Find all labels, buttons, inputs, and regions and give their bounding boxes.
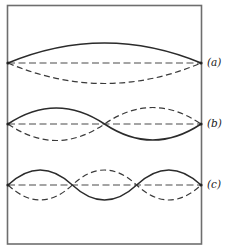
mode-a-node-left [6, 61, 9, 64]
mode-a-node-right [199, 61, 202, 64]
standing-wave-diagram [0, 0, 230, 252]
mode-b-node-left [6, 122, 9, 125]
mode-b-label: (b) [207, 118, 222, 129]
mode-b-waveform [6, 108, 202, 141]
mode-c-label: (c) [207, 179, 221, 190]
mode-c-waveform [6, 170, 202, 200]
mode-a-displacement-solid [8, 43, 201, 63]
mode-c-node-left [6, 183, 9, 186]
mode-c-node-right [199, 183, 202, 186]
standing-wave-figure: (a) (b) (c) [0, 0, 230, 252]
mode-b-node-right [199, 122, 202, 125]
mode-a-label: (a) [207, 57, 221, 68]
mode-a-displacement-dashed [8, 63, 201, 84]
mode-a-waveform [6, 43, 202, 84]
